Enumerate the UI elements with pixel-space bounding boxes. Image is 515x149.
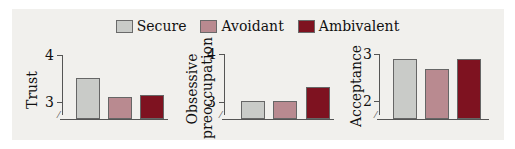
tick-label-high: 4 — [200, 46, 216, 62]
y-axis — [379, 54, 380, 115]
y-axis — [224, 54, 225, 115]
tick-label-low: 2 — [356, 93, 372, 109]
tick-label-high: 3 — [356, 46, 372, 62]
bar-secure — [241, 101, 265, 119]
legend-swatch-avoidant — [200, 20, 217, 33]
x-axis — [377, 119, 489, 120]
legend-label: Avoidant — [221, 18, 283, 34]
legend-label: Ambivalent — [319, 18, 400, 34]
legend-item-secure: Secure — [116, 18, 187, 34]
bar-ambivalent — [140, 95, 164, 119]
tick-label-high: 4 — [38, 47, 54, 63]
bar-avoidant — [108, 97, 132, 119]
y-axis-label: Trust — [25, 70, 39, 110]
legend-swatch-ambivalent — [298, 20, 315, 33]
legend-item-avoidant: Avoidant — [200, 18, 283, 34]
bar-avoidant — [425, 69, 449, 119]
legend: Secure Avoidant Ambivalent — [0, 18, 515, 34]
bar-avoidant — [273, 101, 297, 119]
x-axis — [222, 119, 334, 120]
tick-label-low: 3 — [38, 94, 54, 110]
bar-ambivalent — [457, 59, 481, 119]
tick-label-low: 3 — [200, 94, 216, 110]
bar-secure — [393, 59, 417, 119]
x-axis — [60, 119, 168, 120]
legend-swatch-secure — [116, 20, 133, 33]
y-axis-label-line1: Obsessive — [184, 54, 200, 125]
y-axis — [62, 55, 63, 115]
legend-label: Secure — [137, 18, 187, 34]
bar-ambivalent — [306, 87, 330, 119]
bar-secure — [76, 78, 100, 119]
legend-item-ambivalent: Ambivalent — [298, 18, 400, 34]
